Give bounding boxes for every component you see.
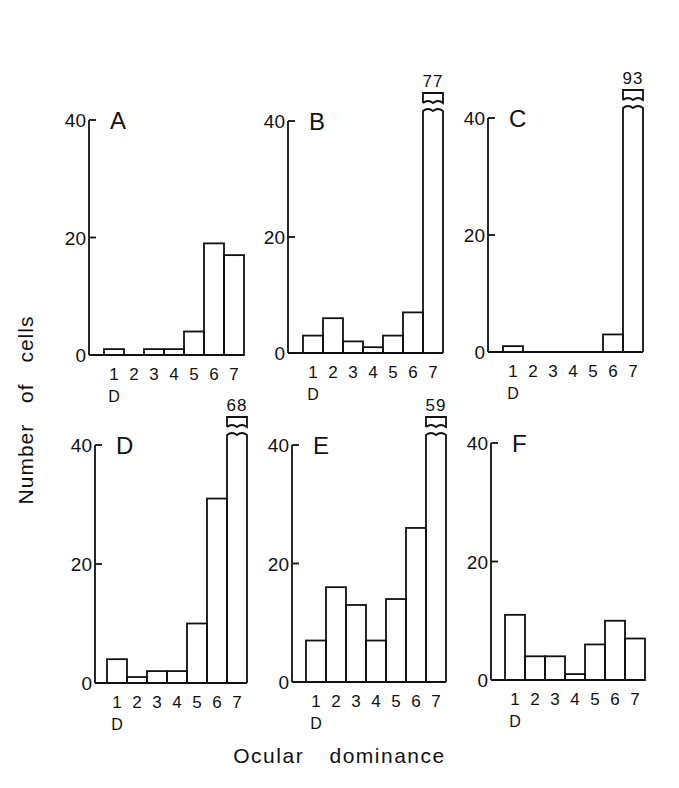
x-tick-label: 2 — [530, 690, 539, 709]
x-note-label: D — [108, 388, 120, 405]
y-tick-label: 20 — [464, 225, 485, 246]
y-axis-label: Number of cells — [6, 250, 46, 570]
x-note-label: D — [310, 715, 322, 732]
x-tick-label: 7 — [232, 693, 241, 712]
bar — [303, 336, 323, 353]
panel-letter: C — [509, 105, 526, 132]
y-tick-label: 0 — [274, 343, 285, 364]
y-axis-label-text: Number of cells — [14, 316, 38, 505]
y-tick-label: 20 — [467, 552, 488, 573]
panel-A: 02040A1234567D — [65, 107, 244, 405]
x-note-label: D — [509, 713, 521, 730]
bar — [326, 587, 346, 682]
y-tick-label: 0 — [477, 670, 488, 691]
panel-B: 02040B123456777D — [264, 72, 444, 403]
bar — [204, 243, 224, 355]
x-axis-label: Ocular dominance — [0, 744, 679, 768]
bar — [503, 346, 523, 352]
x-tick-label: 3 — [348, 363, 357, 382]
bar — [366, 641, 386, 682]
bar — [386, 599, 406, 682]
bar — [227, 433, 247, 683]
bar — [565, 674, 585, 680]
bar — [224, 255, 244, 355]
bar — [585, 644, 605, 680]
x-tick-label: 2 — [129, 365, 138, 384]
bar-break-cap — [623, 90, 643, 100]
y-tick-label: 0 — [474, 342, 485, 363]
bar — [144, 349, 164, 355]
y-tick-label: 20 — [65, 228, 86, 249]
bar — [127, 677, 147, 683]
x-tick-label: 3 — [152, 693, 161, 712]
y-tick-label: 0 — [75, 345, 86, 366]
x-tick-label: 5 — [590, 690, 599, 709]
histogram-figure: 02040A1234567D02040B123456777D02040C1234… — [0, 0, 679, 788]
x-tick-label: 6 — [408, 363, 417, 382]
bar — [545, 656, 565, 680]
panel-E: 02040E123456597D — [268, 396, 447, 732]
x-tick-label: 2 — [132, 693, 141, 712]
y-tick-label: 40 — [464, 108, 485, 129]
x-tick-label: 4 — [172, 693, 181, 712]
x-tick-label: 1 — [109, 365, 118, 384]
bar-break-cap — [227, 417, 247, 427]
bar — [525, 656, 545, 680]
x-tick-label: 4 — [570, 690, 579, 709]
bar — [306, 641, 326, 682]
x-tick-label: 1 — [508, 362, 517, 381]
panel-C: 02040C123456937D — [464, 69, 644, 402]
x-tick-label: 6 — [411, 692, 420, 711]
bar — [426, 433, 446, 682]
y-tick-label: 20 — [268, 554, 289, 575]
x-tick-label: 7 — [431, 692, 440, 711]
x-tick-label: 1 — [311, 692, 320, 711]
panel-letter: F — [512, 430, 527, 457]
x-tick-label: 6 — [608, 362, 617, 381]
y-tick-label: 0 — [81, 673, 92, 694]
x-tick-label: 7 — [630, 690, 639, 709]
bar — [403, 312, 423, 353]
bar — [603, 334, 623, 352]
bar — [423, 109, 443, 353]
bar — [147, 671, 167, 683]
y-tick-label: 40 — [268, 435, 289, 456]
x-tick-label: 6 — [610, 690, 619, 709]
x-tick-label: 1 — [112, 693, 121, 712]
bar — [363, 347, 383, 353]
panel-letter: B — [309, 108, 325, 135]
y-tick-label: 20 — [71, 554, 92, 575]
bar-break-cap — [426, 417, 446, 427]
bar — [107, 659, 127, 683]
x-tick-label: 6 — [212, 693, 221, 712]
bar — [104, 349, 124, 355]
x-tick-label: 7 — [428, 363, 437, 382]
y-tick-label: 40 — [65, 110, 86, 131]
x-tick-label: 7 — [628, 362, 637, 381]
bar — [605, 621, 625, 680]
bar-break-cap — [423, 93, 443, 103]
x-tick-label: 4 — [371, 692, 380, 711]
x-tick-label: 5 — [388, 363, 397, 382]
x-tick-label: 3 — [149, 365, 158, 384]
bar — [383, 336, 403, 353]
bar-break-value: 68 — [227, 396, 248, 415]
bar — [505, 615, 525, 680]
bar — [406, 528, 426, 682]
bar — [625, 639, 645, 680]
x-note-label: D — [507, 385, 519, 402]
x-tick-label: 3 — [351, 692, 360, 711]
x-tick-label: 5 — [192, 693, 201, 712]
bar — [346, 605, 366, 682]
bar — [184, 332, 204, 356]
panel-letter: E — [313, 432, 329, 459]
panel-D: 02040D123456687D — [71, 396, 248, 733]
x-tick-label: 4 — [169, 365, 178, 384]
bar — [167, 671, 187, 683]
y-tick-label: 40 — [467, 433, 488, 454]
x-tick-label: 2 — [528, 362, 537, 381]
bar-break-value: 59 — [426, 396, 447, 415]
bar — [164, 349, 184, 355]
bar — [207, 499, 227, 683]
x-tick-label: 3 — [550, 690, 559, 709]
